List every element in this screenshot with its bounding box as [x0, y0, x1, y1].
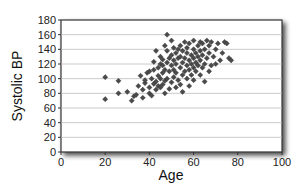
y-tick-label: 160	[38, 29, 56, 41]
y-tick-label: 80	[44, 87, 56, 99]
x-tick-label: 20	[99, 156, 111, 168]
x-tick-label: 40	[143, 156, 155, 168]
x-tick-label: 0	[58, 156, 64, 168]
y-axis-title: Systolic BP	[9, 51, 25, 122]
y-axis: 020406080100120140160180	[38, 14, 61, 158]
x-tick-label: 80	[232, 156, 244, 168]
scatter-chart: 020406080100120140160180 020406080100 Ag…	[0, 0, 304, 186]
x-tick-label: 100	[273, 156, 291, 168]
x-axis: 020406080100	[58, 152, 291, 168]
y-tick-label: 60	[44, 102, 56, 114]
y-tick-label: 0	[50, 146, 56, 158]
y-tick-label: 20	[44, 131, 56, 143]
x-tick-label: 60	[187, 156, 199, 168]
y-tick-label: 120	[38, 58, 56, 70]
y-tick-label: 100	[38, 73, 56, 85]
x-axis-title: Age	[159, 167, 184, 183]
y-tick-label: 140	[38, 43, 56, 55]
y-tick-label: 40	[44, 117, 56, 129]
y-tick-label: 180	[38, 14, 56, 26]
